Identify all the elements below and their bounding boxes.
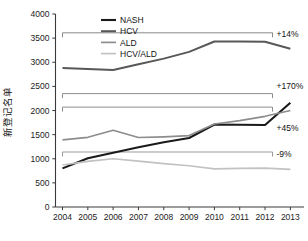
y-axis-title: 新登记名单 bbox=[2, 87, 13, 137]
x-axis-ticks: 2004200520062007200820092010201120122013 bbox=[53, 207, 300, 222]
series-line-hcv bbox=[63, 42, 291, 70]
x-tick-label: 2011 bbox=[231, 212, 250, 222]
annotation-bracket bbox=[63, 33, 273, 38]
annotation-bracket bbox=[63, 94, 273, 99]
legend-label-nash: NASH bbox=[120, 15, 144, 25]
annotation-label: +14% bbox=[277, 29, 299, 39]
y-tick-label: 4000 bbox=[31, 9, 50, 19]
y-tick-label: 2000 bbox=[31, 106, 50, 116]
y-axis-title-group: 新登记名单 bbox=[2, 87, 13, 137]
x-tick-label: 2010 bbox=[205, 212, 224, 222]
y-tick-label: 0 bbox=[45, 202, 50, 212]
legend: NASHHCVALDHCV/ALD bbox=[101, 15, 157, 59]
series-layer bbox=[63, 42, 291, 170]
y-tick-label: 1000 bbox=[31, 154, 50, 164]
series-line-hcv-ald bbox=[63, 159, 291, 170]
chart-canvas: 新登记名单 05001000150020002500300035004000 2… bbox=[0, 0, 308, 241]
legend-label-hcv: HCV bbox=[120, 26, 138, 36]
annotation-label: +170% bbox=[277, 81, 304, 91]
annotation-label: +45% bbox=[277, 123, 299, 133]
y-axis-ticks: 05001000150020002500300035004000 bbox=[31, 9, 56, 212]
x-tick-label: 2012 bbox=[256, 212, 275, 222]
legend-label-hcv-ald: HCV/ALD bbox=[120, 49, 157, 59]
line-chart: 新登记名单 05001000150020002500300035004000 2… bbox=[0, 0, 308, 241]
y-tick-label: 500 bbox=[35, 178, 49, 188]
x-tick-label: 2009 bbox=[180, 212, 199, 222]
x-tick-label: 2013 bbox=[281, 212, 300, 222]
y-tick-label: 3500 bbox=[31, 33, 50, 43]
x-tick-label: 2004 bbox=[53, 212, 72, 222]
x-tick-label: 2006 bbox=[104, 212, 123, 222]
annotation-bracket bbox=[63, 107, 273, 112]
x-tick-label: 2005 bbox=[78, 212, 97, 222]
x-tick-label: 2008 bbox=[154, 212, 173, 222]
y-tick-label: 2500 bbox=[31, 81, 50, 91]
y-tick-label: 3000 bbox=[31, 57, 50, 67]
x-tick-label: 2007 bbox=[129, 212, 148, 222]
legend-label-ald: ALD bbox=[120, 38, 137, 48]
annotation-label: -9% bbox=[277, 149, 293, 159]
y-tick-label: 1500 bbox=[31, 130, 50, 140]
annotation-bracket bbox=[63, 152, 273, 157]
